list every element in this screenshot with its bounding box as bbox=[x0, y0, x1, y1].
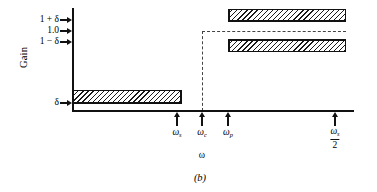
figure-caption: (b) bbox=[194, 172, 206, 183]
passband-lower-tolerance-band bbox=[228, 39, 346, 52]
x-tick-arrow-icon-ws bbox=[174, 112, 181, 126]
omega-glyph: ω bbox=[172, 127, 179, 137]
y-axis-label: Gain bbox=[18, 28, 29, 88]
x-tick-subscript-p: p bbox=[230, 131, 233, 138]
y-tick-one-label: 1.0 bbox=[47, 26, 60, 36]
omega-glyph: ω bbox=[330, 126, 337, 136]
x-tick-subscript-s: s bbox=[179, 131, 182, 138]
x-tick-label-wp: ωp bbox=[223, 128, 233, 139]
x-tick-arrow-icon-ws-over-2 bbox=[332, 112, 339, 126]
x-tick-arrow-icon-wc bbox=[199, 112, 206, 126]
y-tick-1-plus-delta-label: 1 + δ bbox=[40, 15, 60, 25]
filter-tolerance-scheme-figure: Gain 1 + δ 1.0 1 − δ δ bbox=[0, 0, 377, 192]
x-tick-arrow-icon-wp bbox=[225, 112, 232, 126]
y-tick-delta: δ bbox=[55, 98, 72, 108]
ideal-response-dashed-horizontal bbox=[202, 31, 346, 32]
y-tick-1-plus-delta: 1 + δ bbox=[40, 15, 72, 25]
x-axis-line bbox=[72, 110, 354, 112]
ideal-response-dashed-vertical bbox=[202, 31, 203, 111]
x-tick-label-ws: ωs bbox=[172, 128, 181, 139]
passband-upper-tolerance-band bbox=[228, 9, 346, 22]
fraction-numerator: ωs bbox=[330, 127, 339, 138]
y-tick-1-minus-delta: 1 − δ bbox=[40, 37, 72, 47]
fraction-denominator: 2 bbox=[330, 141, 339, 151]
y-tick-arrow-icon bbox=[60, 28, 72, 35]
y-tick-arrow-icon bbox=[60, 17, 72, 24]
stopband-tolerance-band bbox=[73, 90, 182, 104]
y-tick-arrow-icon bbox=[60, 100, 72, 107]
y-tick-one: 1.0 bbox=[47, 26, 72, 36]
omega-glyph: ω bbox=[197, 127, 204, 137]
fraction-numerator-subscript: s bbox=[337, 130, 340, 137]
omega-glyph: ω bbox=[223, 127, 230, 137]
x-tick-subscript-c: c bbox=[204, 131, 207, 138]
y-tick-arrow-icon bbox=[60, 39, 72, 46]
x-axis-label: ω bbox=[199, 150, 205, 160]
x-tick-label-wc: ωc bbox=[197, 128, 207, 139]
y-tick-1-minus-delta-label: 1 − δ bbox=[40, 37, 60, 47]
x-tick-label-ws-over-2: ωs 2 bbox=[330, 127, 339, 151]
